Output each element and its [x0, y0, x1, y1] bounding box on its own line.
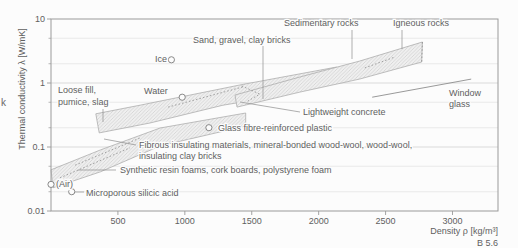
air-label: (Air): [56, 179, 73, 189]
x-tick-label: 3000: [442, 216, 462, 226]
lightweight-concrete-leader: [240, 102, 300, 112]
window-glass-label-1: Window: [449, 88, 482, 98]
sedimentary-label: Sedimentary rocks: [284, 18, 359, 28]
glass-fibre-label: Glass fibre-reinforced plastic: [218, 123, 333, 133]
igneous-label: Igneous rocks: [393, 18, 450, 28]
thermal-conductivity-density-chart: k 500100015002000250030000.010.1110Densi…: [0, 0, 518, 248]
loose-fill-label-1: Loose fill,: [58, 85, 96, 95]
chart-canvas: 500100015002000250030000.010.1110Density…: [0, 0, 518, 248]
x-tick-label: 1000: [175, 216, 195, 226]
x-tick-label: 2500: [376, 216, 396, 226]
fibrous-label-1: Fibrous insulating materials, mineral-bo…: [139, 140, 412, 150]
y-tick-label: 0.01: [27, 206, 45, 216]
figure-caption: B 5.6: [477, 238, 498, 248]
ice-label: Ice: [155, 54, 167, 64]
ice-marker: [168, 57, 174, 63]
glass-fibre-reinforced-plastic-marker: [206, 125, 212, 131]
x-tick-label: 2000: [309, 216, 329, 226]
y-axis-title: Thermal conductivity λ [W/mK]: [17, 28, 27, 150]
y-tick-label: 10: [35, 14, 45, 24]
window-glass-label-2: glass: [449, 99, 471, 109]
water-label: Water: [144, 86, 168, 96]
y-tick-label: 0.1: [32, 142, 45, 152]
air-marker: [48, 181, 54, 187]
fibrous-label-2: insulating clay bricks: [139, 151, 222, 161]
y-tick-label: 1: [40, 78, 45, 88]
x-tick-label: 500: [110, 216, 125, 226]
microporous-label: Microporous silicic acid: [86, 188, 179, 198]
x-axis-title: Density ρ [kg/m³]: [430, 226, 498, 236]
water-marker: [179, 94, 185, 100]
sand-gravel-label: Sand, gravel, clay bricks: [193, 35, 291, 45]
loose-fill-label-2: pumice, slag: [58, 97, 109, 107]
synthetic-foams-label: Synthetic resin foams, cork boards, poly…: [120, 165, 332, 175]
microporous-silicic-acid-marker: [69, 189, 75, 195]
lightweight-concrete-label: Lightweight concrete: [303, 107, 386, 117]
x-tick-label: 1500: [242, 216, 262, 226]
